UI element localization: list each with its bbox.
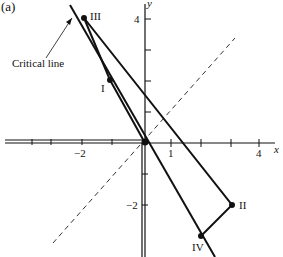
critical-line-label: Critical line <box>12 58 64 69</box>
point-origin <box>142 139 149 146</box>
y-axis-label: y <box>147 0 152 9</box>
y-tick-label-4: 4 <box>134 14 140 25</box>
point-II <box>229 202 235 208</box>
x-tick-label-4: 4 <box>256 148 262 159</box>
point-III <box>81 15 87 21</box>
point-label-I: I <box>101 83 105 94</box>
trajectory-polygon <box>84 18 232 236</box>
panel-label: (a) <box>1 0 15 13</box>
point-label-IV: IV <box>192 242 204 253</box>
annotation-arrow <box>46 18 72 58</box>
x-tick-label-neg2: −2 <box>74 148 86 159</box>
point-I <box>107 77 113 83</box>
point-label-II: II <box>239 200 246 211</box>
x-axis-label: x <box>274 144 279 155</box>
y-tick-label-neg2: −2 <box>126 200 138 211</box>
point-IV <box>198 233 204 239</box>
arrowhead-icon <box>66 18 72 25</box>
figure: (a) Critical line y x −2 1 4 4 −2 III I … <box>0 0 283 257</box>
y-ticks <box>142 19 151 205</box>
plot-canvas <box>0 0 283 257</box>
point-label-III: III <box>90 11 101 22</box>
x-tick-label-1: 1 <box>168 148 174 159</box>
